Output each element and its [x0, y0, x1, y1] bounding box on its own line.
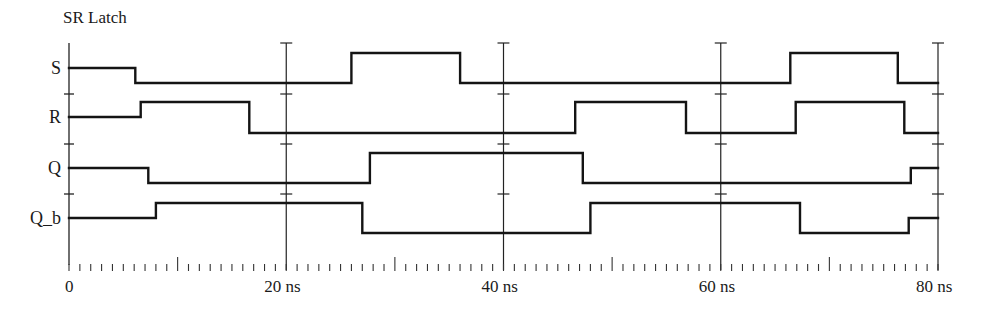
time-label-0: 0	[65, 277, 74, 296]
signal-label-Q: Q	[48, 158, 61, 178]
time-axis	[64, 43, 938, 271]
signal-label-S: S	[51, 58, 61, 78]
time-label-80: 80 ns	[916, 277, 952, 296]
gridlines	[280, 43, 944, 270]
time-label-40: 40 ns	[482, 277, 518, 296]
signal-labels: SRQQ_b	[30, 58, 61, 228]
time-label-20: 20 ns	[264, 277, 300, 296]
time-label-60: 60 ns	[699, 277, 735, 296]
diagram-title: SR Latch	[63, 8, 127, 27]
signal-label-R: R	[49, 107, 61, 127]
time-axis-labels: 020 ns40 ns60 ns80 ns	[65, 277, 952, 296]
timing-diagram: SR Latch SRQQ_b 020 ns40 ns60 ns80 ns	[0, 0, 991, 325]
signal-label-Q_b: Q_b	[30, 208, 61, 228]
